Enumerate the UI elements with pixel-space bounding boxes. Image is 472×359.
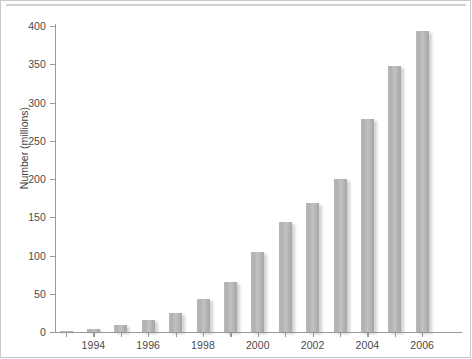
x-axis-tick-label: 2000 xyxy=(228,339,288,351)
x-axis-tick xyxy=(230,332,231,337)
y-axis-tick-label: 0 xyxy=(6,327,46,337)
x-axis-tick xyxy=(121,332,122,337)
x-axis-tick xyxy=(313,332,314,337)
y-axis-tick xyxy=(50,332,56,333)
x-axis-tick xyxy=(148,332,149,337)
bar-2004 xyxy=(361,119,374,332)
y-axis-tick-label: 400 xyxy=(6,21,46,31)
bar-2003 xyxy=(334,179,347,332)
x-axis-tick-label: 2002 xyxy=(283,339,343,351)
y-axis-tick-label: 250 xyxy=(6,136,46,146)
y-axis-tick-label: 100 xyxy=(6,251,46,261)
bar-1995 xyxy=(114,325,127,332)
x-axis-tick xyxy=(66,332,67,337)
x-axis-tick-label: 1994 xyxy=(63,339,123,351)
x-axis-tick-label: 2006 xyxy=(392,339,452,351)
x-axis-tick xyxy=(395,332,396,337)
x-axis-tick xyxy=(285,332,286,337)
bar-2002 xyxy=(306,203,319,332)
y-axis-tick-label: 200 xyxy=(6,174,46,184)
x-axis-tick xyxy=(422,332,423,337)
bar-1997 xyxy=(169,313,182,332)
y-axis-tick-label: 300 xyxy=(6,98,46,108)
bar-2001 xyxy=(279,222,292,332)
bar-1998 xyxy=(197,299,210,332)
y-axis-title: Number (millions) xyxy=(18,68,30,228)
bar-1999 xyxy=(224,282,237,332)
bar-1996 xyxy=(142,320,155,332)
x-axis-tick xyxy=(340,332,341,337)
top-rule-divider xyxy=(6,4,466,6)
bar-2005 xyxy=(388,66,401,332)
y-axis-tick-label: 350 xyxy=(6,59,46,69)
bar-2006 xyxy=(416,31,429,332)
x-axis-tick xyxy=(367,332,368,337)
x-axis-tick-label: 1996 xyxy=(118,339,178,351)
y-axis-tick-label: 50 xyxy=(6,289,46,299)
x-axis-tick xyxy=(203,332,204,337)
x-axis-tick-label: 2004 xyxy=(337,339,397,351)
x-axis-tick xyxy=(258,332,259,337)
y-axis-tick-label: 150 xyxy=(6,212,46,222)
x-axis-tick xyxy=(93,332,94,337)
plot-area xyxy=(56,26,462,332)
bar-2000 xyxy=(251,252,264,332)
x-axis-tick-label: 1998 xyxy=(173,339,233,351)
x-axis-tick xyxy=(176,332,177,337)
bar-chart-figure: Number (millions) 0501001502002503003504… xyxy=(0,0,472,359)
bar-1994 xyxy=(87,329,100,332)
bar-1993 xyxy=(60,331,73,332)
